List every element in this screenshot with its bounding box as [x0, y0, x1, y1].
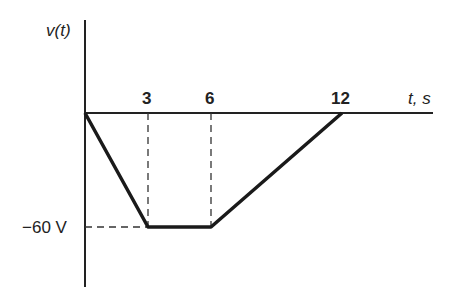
y-tick-minus60: −60 V — [22, 219, 67, 236]
y-axis-label: v(t) — [46, 22, 71, 39]
t-axis-label: t, s — [408, 90, 431, 107]
tick-12: 12 — [331, 90, 350, 107]
tick-6: 6 — [205, 90, 214, 107]
tick-3: 3 — [142, 90, 151, 107]
voltage-waveform — [85, 113, 342, 227]
waveform-diagram — [0, 0, 461, 297]
